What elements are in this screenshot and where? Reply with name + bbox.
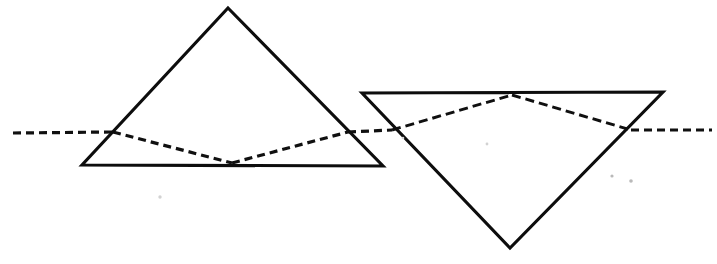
figure-canvas: Ray path through two prisms A dashed hor… — [0, 0, 717, 264]
speck-lower-left — [158, 195, 161, 198]
speck-lower-right-b — [629, 179, 633, 183]
speck-mid-right — [486, 143, 489, 146]
speck-lower-right-a — [610, 174, 613, 177]
ray-diagram-svg: Ray path through two prisms A dashed hor… — [0, 0, 717, 264]
speck-left-inner — [402, 137, 405, 140]
